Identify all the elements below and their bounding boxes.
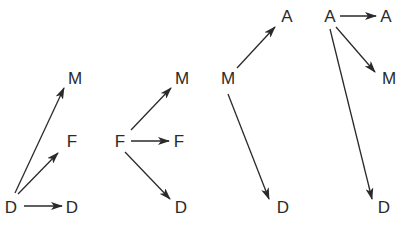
node-label: F xyxy=(67,132,77,151)
arrow-icon xyxy=(228,94,269,199)
arrow-icon xyxy=(131,88,171,130)
node-label: M xyxy=(221,69,235,88)
node-label: D xyxy=(378,198,390,217)
cell-transition-diagram: DDFMFFMDMADAAMD xyxy=(0,0,408,225)
node-label: M xyxy=(68,69,82,88)
panel-f-transitions: FFMD xyxy=(115,69,189,217)
arrow-icon xyxy=(336,27,375,72)
arrow-icon xyxy=(15,88,64,193)
node-label: F xyxy=(115,132,125,151)
arrow-icon xyxy=(237,27,275,68)
node-label: D xyxy=(66,198,78,217)
panel-m-transitions: MAD xyxy=(221,7,293,217)
node-label: M xyxy=(382,69,396,88)
node-label: A xyxy=(380,7,392,26)
node-label: D xyxy=(175,198,187,217)
node-label: D xyxy=(277,198,289,217)
panel-a-transitions: AAMD xyxy=(324,7,396,217)
node-label: F xyxy=(174,132,184,151)
node-label: D xyxy=(5,198,17,217)
node-label: M xyxy=(175,69,189,88)
node-label: A xyxy=(281,7,293,26)
node-label: A xyxy=(324,7,336,26)
arrow-icon xyxy=(330,29,372,199)
arrow-icon xyxy=(125,152,170,199)
panel-d-transitions: DDFM xyxy=(5,69,82,217)
